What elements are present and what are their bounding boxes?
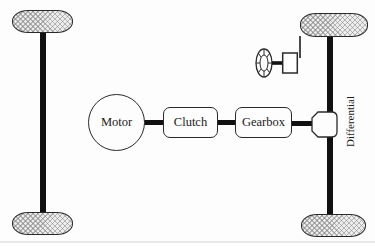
tire-rear-left-icon bbox=[12, 212, 73, 235]
drive-shaft-clutch-gearbox bbox=[216, 120, 237, 125]
clutch-node: Clutch bbox=[163, 107, 218, 138]
tire-rear-right-icon bbox=[301, 214, 366, 237]
steering-column-box bbox=[283, 53, 298, 73]
motor-label: Motor bbox=[101, 115, 132, 130]
motor-node: Motor bbox=[88, 94, 145, 151]
differential-housing-icon bbox=[311, 110, 339, 140]
scan-artifact-line bbox=[0, 241, 375, 243]
left-axle bbox=[40, 30, 46, 214]
drive-shaft-motor-clutch bbox=[142, 120, 164, 125]
clutch-label: Clutch bbox=[174, 115, 207, 130]
steering-shaft bbox=[272, 61, 282, 65]
steering-linkage-line bbox=[299, 36, 301, 58]
tire-front-right-icon bbox=[300, 13, 368, 37]
gearbox-label: Gearbox bbox=[242, 115, 285, 130]
drive-shaft-gearbox-differential bbox=[290, 121, 313, 126]
differential-label: Differential bbox=[344, 94, 357, 150]
drivetrain-diagram: Motor Clutch Gearbox Differential bbox=[0, 0, 375, 246]
tire-front-left-icon bbox=[12, 10, 73, 33]
steering-wheel-icon bbox=[255, 48, 303, 80]
gearbox-node: Gearbox bbox=[235, 107, 292, 138]
